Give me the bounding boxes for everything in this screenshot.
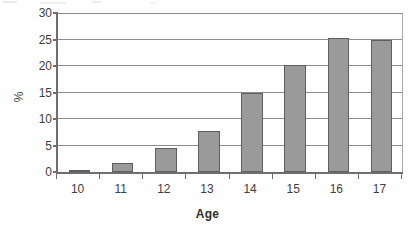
x-axis-title: Age <box>0 207 415 221</box>
y-axis-tick-labels: 051015202530 <box>20 0 52 236</box>
x-axis-tickmark <box>358 174 359 179</box>
x-axis-tickmark <box>99 174 100 179</box>
x-axis-tick-label: 16 <box>315 182 358 196</box>
bar[interactable] <box>241 93 263 172</box>
bar-slot <box>274 13 317 172</box>
x-axis-tickmark <box>142 174 143 179</box>
y-axis-tick-label: 5 <box>20 140 52 152</box>
x-axis-tickmarks <box>56 174 401 180</box>
x-axis-tickmark <box>315 174 316 179</box>
y-axis-tick-label: 20 <box>20 60 52 72</box>
bar-slot <box>58 13 101 172</box>
x-axis-tick-label: 13 <box>185 182 228 196</box>
x-axis-tickmark <box>401 174 402 179</box>
bar-slot <box>360 13 403 172</box>
bar[interactable] <box>328 38 350 172</box>
x-axis-tick-labels: 1011121314151617 <box>56 182 401 200</box>
x-axis-tickmark <box>56 174 57 179</box>
x-axis-tick-label: 14 <box>229 182 272 196</box>
bar[interactable] <box>371 40 393 173</box>
bar[interactable] <box>198 131 220 172</box>
bar-slot <box>101 13 144 172</box>
y-axis-tick-label: 10 <box>20 113 52 125</box>
plot-area <box>56 13 403 174</box>
bar[interactable] <box>69 170 91 172</box>
y-axis-tick-label: 25 <box>20 34 52 46</box>
x-axis-tick-label: 10 <box>56 182 99 196</box>
scan-artifact <box>150 2 156 4</box>
x-axis-tick-label: 15 <box>272 182 315 196</box>
bars-layer <box>58 13 403 172</box>
bar[interactable] <box>155 148 177 172</box>
x-axis-tickmark <box>229 174 230 179</box>
y-axis-tick-label: 15 <box>20 87 52 99</box>
x-axis-tickmark <box>185 174 186 179</box>
x-axis-tick-label: 12 <box>142 182 185 196</box>
bar-slot <box>231 13 274 172</box>
bar[interactable] <box>112 163 134 172</box>
y-axis-tick-label: 0 <box>20 166 52 178</box>
x-axis-tick-label: 17 <box>358 182 401 196</box>
x-axis-tick-label: 11 <box>99 182 142 196</box>
x-axis-tickmark <box>272 174 273 179</box>
bar-slot <box>187 13 230 172</box>
bar-slot <box>144 13 187 172</box>
bar-chart-figure: % 051015202530 1011121314151617 Age <box>0 0 415 236</box>
bar-slot <box>317 13 360 172</box>
bar[interactable] <box>284 65 306 172</box>
scan-artifact <box>92 1 102 3</box>
scan-artifact <box>3 1 17 3</box>
y-axis-tick-label: 30 <box>20 7 52 19</box>
